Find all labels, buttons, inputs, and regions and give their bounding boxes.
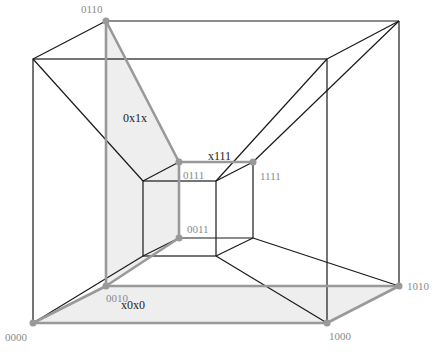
vertex-0000 [30, 320, 37, 327]
vertex-0010 [103, 283, 110, 290]
edges [33, 21, 399, 323]
face-label-0x1x: 0x1x [123, 111, 147, 125]
vertex-1010 [396, 283, 403, 290]
highlight-edges [33, 21, 399, 323]
tesseract-diagram: 0110 0111 1111 0011 0010 1010 0000 1000 … [0, 0, 445, 363]
face-label-x0x0: x0x0 [121, 298, 145, 312]
vertices [30, 18, 403, 327]
vertex-label-0111: 0111 [183, 169, 204, 181]
vertex-0111 [176, 159, 183, 166]
vertex-label-1000: 1000 [329, 330, 352, 342]
vertex-label-0011: 0011 [187, 223, 209, 235]
vertex-label-1010: 1010 [407, 280, 430, 292]
vertex-label-0000: 0000 [5, 331, 28, 343]
vertex-1111 [250, 159, 257, 166]
face-x0x0 [33, 286, 399, 323]
face-label-x111: x111 [208, 149, 231, 163]
vertex-0110 [103, 18, 110, 25]
vertex-0011 [176, 235, 183, 242]
vertex-label-1111: 1111 [260, 170, 281, 182]
vertex-1000 [324, 320, 331, 327]
vertex-label-0110: 0110 [81, 3, 103, 15]
